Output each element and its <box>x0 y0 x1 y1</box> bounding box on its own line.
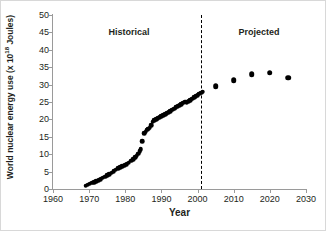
x-tick-mark <box>306 189 307 193</box>
y-tick-label-20: 20 <box>39 115 49 124</box>
data-point-projected <box>249 71 255 77</box>
x-tick-label-2000: 2000 <box>188 195 208 204</box>
x-tick-mark <box>125 189 126 193</box>
y-tick-mark <box>49 85 53 86</box>
data-point-projected <box>285 75 291 81</box>
x-tick-mark <box>270 189 271 193</box>
x-tick-label-1970: 1970 <box>79 195 99 204</box>
x-tick-mark <box>53 189 54 193</box>
x-tick-label-2030: 2030 <box>296 195 316 204</box>
y-tick-mark <box>49 15 53 16</box>
historical-projected-divider <box>201 15 202 189</box>
x-tick-mark <box>89 189 90 193</box>
x-tick-mark <box>161 189 162 193</box>
x-axis-line <box>52 189 307 190</box>
y-tick-label-25: 25 <box>39 98 49 107</box>
y-tick-label-50: 50 <box>39 11 49 20</box>
nuclear-energy-chart: World nuclear energy use (x 1018 Joules)… <box>0 0 326 231</box>
x-tick-label-2020: 2020 <box>260 195 280 204</box>
y-tick-mark <box>49 32 53 33</box>
y-tick-label-45: 45 <box>39 28 49 37</box>
y-tick-mark <box>49 154 53 155</box>
data-point-projected <box>267 70 273 76</box>
annotation-projected: Projected <box>238 27 279 37</box>
data-point-historical <box>140 139 145 144</box>
y-tick-label-0: 0 <box>44 185 49 194</box>
x-tick-label-1990: 1990 <box>151 195 171 204</box>
data-point-historical <box>139 147 144 152</box>
y-tick-mark <box>49 67 53 68</box>
x-tick-label-1980: 1980 <box>115 195 135 204</box>
y-tick-mark <box>49 137 53 138</box>
annotation-historical: Historical <box>108 27 149 37</box>
data-point-projected <box>231 77 237 83</box>
x-tick-mark <box>198 189 199 193</box>
y-axis-title: World nuclear energy use (x 1018 Joules) <box>3 0 17 197</box>
x-tick-mark <box>234 189 235 193</box>
y-tick-label-30: 30 <box>39 80 49 89</box>
x-tick-label-1960: 1960 <box>43 195 63 204</box>
y-tick-mark <box>49 172 53 173</box>
data-point-projected <box>213 84 219 90</box>
x-axis-title: Year <box>53 207 306 218</box>
y-tick-label-5: 5 <box>44 167 49 176</box>
data-point-historical <box>200 89 205 94</box>
y-axis-title-exponent: 18 <box>4 47 10 54</box>
x-tick-label-2010: 2010 <box>224 195 244 204</box>
y-tick-mark <box>49 102 53 103</box>
y-tick-mark <box>49 50 53 51</box>
y-tick-mark <box>49 119 53 120</box>
y-tick-label-40: 40 <box>39 45 49 54</box>
y-tick-label-10: 10 <box>39 150 49 159</box>
y-tick-label-15: 15 <box>39 132 49 141</box>
y-tick-label-35: 35 <box>39 63 49 72</box>
plot-area: 05101520253035404550 1960197019801990200… <box>53 15 306 189</box>
